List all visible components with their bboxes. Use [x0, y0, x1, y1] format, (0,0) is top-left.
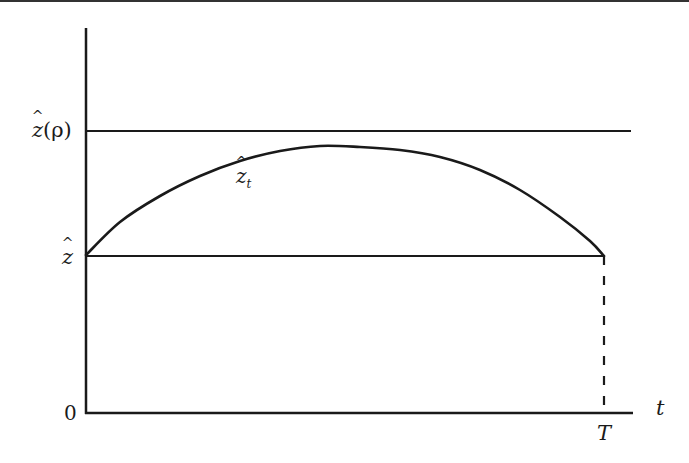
terminal-time-label: T [597, 423, 611, 444]
z-hat-rho-arg: (ρ) [43, 118, 72, 142]
z-hat-base: z [62, 247, 73, 268]
z-hat-t-subscript: t [247, 177, 252, 191]
z-hat-t-label: zt [236, 166, 251, 190]
z-hat-rho-base: z [32, 120, 43, 141]
origin-label: 0 [64, 403, 77, 423]
z-hat-rho-label: z(ρ) [32, 120, 72, 141]
z-hat-t-base: z [236, 166, 247, 186]
diagram-canvas [0, 0, 689, 463]
z-hat-t-curve [86, 146, 604, 256]
z-hat-label: z [62, 247, 73, 268]
t-axis-label: t [656, 398, 664, 419]
